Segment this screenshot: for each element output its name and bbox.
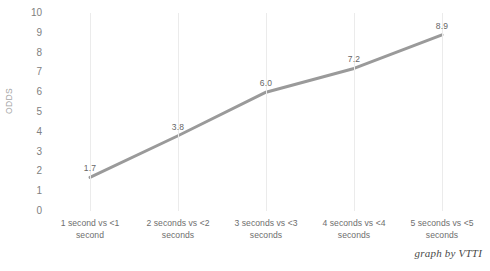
x-axis-tick-label: 4 seconds vs <4seconds	[310, 218, 398, 241]
x-axis-tick-label: 1 second vs <1second	[46, 218, 134, 241]
y-axis-tick-label: 8	[18, 48, 42, 58]
data-point-label: 7.2	[348, 54, 360, 64]
x-axis-tick-label-line: seconds	[398, 230, 486, 242]
x-axis-tick-label-line: 5 seconds vs <5	[398, 218, 486, 230]
y-axis-tick-label: 4	[18, 127, 42, 137]
data-point-label: 1.7	[84, 163, 96, 173]
x-axis-tick-label-line: 4 seconds vs <4	[310, 218, 398, 230]
y-axis-tick-label: 3	[18, 147, 42, 157]
data-point-label: 3.8	[172, 122, 184, 132]
data-point-label: 8.9	[436, 21, 448, 31]
y-axis-tick-label: 2	[18, 166, 42, 176]
x-axis-tick-label-line: seconds	[134, 230, 222, 242]
y-axis-tick-label: 1	[18, 186, 42, 196]
plot-area: 1.73.86.07.28.9	[46, 13, 486, 211]
y-axis-tick-labels: 109876543210	[12, 0, 42, 271]
y-axis-tick-label: 7	[18, 67, 42, 77]
y-axis-tick-label: 0	[18, 206, 42, 216]
data-point-label: 6.0	[260, 78, 272, 88]
vertical-gridline	[266, 13, 267, 211]
chart-credit: graph by VTTI	[415, 247, 482, 259]
x-axis-tick-label-line: seconds	[222, 230, 310, 242]
vertical-gridline	[442, 13, 443, 211]
vertical-gridline	[354, 13, 355, 211]
y-axis-tick-label: 10	[18, 8, 42, 18]
chart-container: ODDS 109876543210 1.73.86.07.28.9 1 seco…	[0, 0, 490, 271]
x-axis-tick-label-line: seconds	[310, 230, 398, 242]
vertical-gridline	[90, 13, 91, 211]
x-axis-tick-label-line: 3 seconds vs <3	[222, 218, 310, 230]
y-axis-tick-label: 5	[18, 107, 42, 117]
x-axis-tick-label: 2 seconds vs <2seconds	[134, 218, 222, 241]
x-axis-tick-label-line: second	[46, 230, 134, 242]
y-axis-tick-label: 6	[18, 87, 42, 97]
x-axis-tick-label-line: 1 second vs <1	[46, 218, 134, 230]
x-axis-tick-label: 5 seconds vs <5seconds	[398, 218, 486, 241]
vertical-gridline	[178, 13, 179, 211]
x-axis-tick-label-line: 2 seconds vs <2	[134, 218, 222, 230]
x-axis-tick-label: 3 seconds vs <3seconds	[222, 218, 310, 241]
y-axis-tick-label: 9	[18, 28, 42, 38]
